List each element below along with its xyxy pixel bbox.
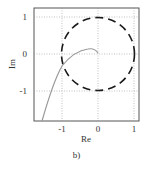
xtick-label: 0: [96, 124, 101, 134]
chart: 1 0 -1 -1 0 1 Re Im: [0, 0, 153, 174]
ytick-label: 1: [23, 12, 28, 22]
nyquist-curve: [42, 49, 98, 121]
ytick-label: 0: [23, 49, 28, 59]
plot-frame: [34, 8, 139, 121]
x-axis-label: Re: [81, 134, 91, 144]
ytick-label: -1: [20, 86, 28, 96]
y-axis-label: Im: [7, 59, 17, 69]
figure-caption: b): [0, 150, 153, 160]
grid: [34, 8, 139, 121]
xtick-label: -1: [58, 124, 66, 134]
xtick-label: 1: [132, 124, 137, 134]
